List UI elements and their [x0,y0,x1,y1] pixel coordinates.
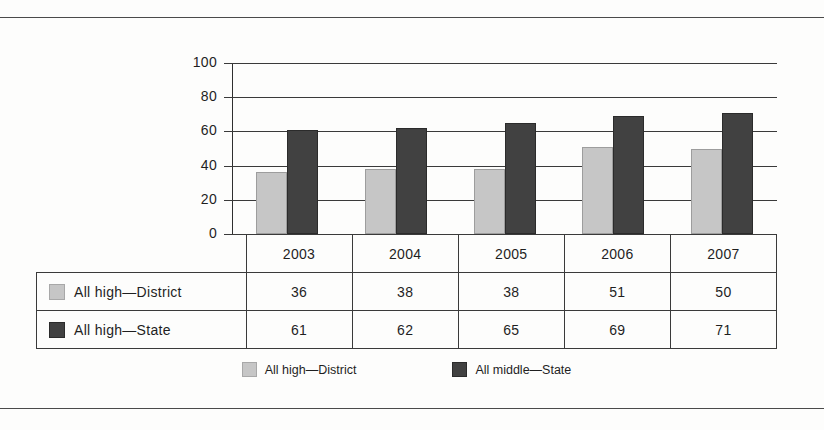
legend-swatch-district-icon [242,362,257,377]
figure-bottom-rule [0,408,824,409]
figure-top-rule [0,17,824,18]
bar-district-2004 [365,169,396,234]
bar-state-2007 [722,113,753,234]
series-label-text: All high—District [74,284,182,300]
bar-state-2006 [613,116,644,234]
y-tick-label-40: 40 [171,157,217,173]
table-cell-district-2006: 51 [564,273,670,311]
series-swatch-district-icon [49,284,65,300]
bar-group-2007 [668,63,777,234]
table-row: All high—District3638385150 [37,273,777,311]
y-tick-20 [224,200,233,201]
bar-state-2005 [505,123,536,234]
series-swatch-state-icon [49,322,65,338]
legend-swatch-state-icon [452,362,467,377]
y-tick-label-20: 20 [171,191,217,207]
bar-district-2005 [474,169,505,234]
table-header-year-2003: 2003 [246,235,352,273]
table-header-year-2007: 2007 [670,235,776,273]
bar-state-2004 [396,128,427,234]
bar-district-2007 [691,149,722,235]
table-cell-district-2004: 38 [352,273,458,311]
legend-item-label: All high—District [265,363,357,377]
table-row-label-cell: All high—State [37,311,247,349]
table-header-row: 20032004200520062007 [37,235,777,273]
table-header-blank-cell [37,235,247,273]
table-cell-state-2005: 65 [458,311,564,349]
series-label-text: All high—State [74,322,171,338]
table-cell-state-2006: 69 [564,311,670,349]
bar-group-2005 [451,63,560,234]
table-header-year-2005: 2005 [458,235,564,273]
legend-item-district: All high—District [242,362,357,377]
y-tick-80 [224,97,233,98]
bar-group-2003 [233,63,342,234]
y-tick-label-100: 100 [171,54,217,70]
bar-district-2006 [582,147,613,234]
bar-district-2003 [256,172,287,234]
y-tick-label-80: 80 [171,88,217,104]
table-cell-district-2007: 50 [670,273,776,311]
table-header-year-2006: 2006 [564,235,670,273]
table-cell-state-2004: 62 [352,311,458,349]
y-tick-label-60: 60 [171,122,217,138]
clipped-caption [150,0,570,9]
table-header-year-2004: 2004 [352,235,458,273]
legend-item-label: All middle—State [475,363,571,377]
table-cell-state-2007: 71 [670,311,776,349]
legend-item-state: All middle—State [452,362,571,377]
chart-legend: All high—DistrictAll middle—State [36,362,777,377]
bar-series-container [233,63,777,234]
table-row: All high—State6162656971 [37,311,777,349]
y-tick-40 [224,166,233,167]
y-axis-tick-labels: 020406080100 [171,63,217,234]
bar-group-2006 [559,63,668,234]
table-row-label-cell: All high—District [37,273,247,311]
bar-state-2003 [287,130,318,234]
table-cell-state-2003: 61 [246,311,352,349]
table-cell-district-2003: 36 [246,273,352,311]
bar-group-2004 [342,63,451,234]
y-tick-60 [224,131,233,132]
bar-chart-plot-area: 020406080100 [233,63,777,234]
y-tick-100 [224,63,233,64]
chart-data-table: 20032004200520062007All high—District363… [36,234,777,349]
table-cell-district-2005: 38 [458,273,564,311]
